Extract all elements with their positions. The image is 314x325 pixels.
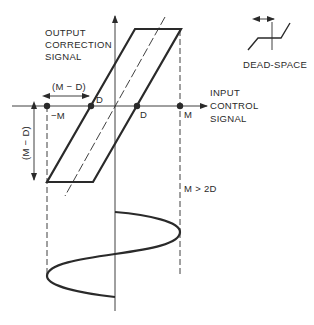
diagram-canvas: OUTPUT CORRECTION SIGNAL INPUT CONTROL S… <box>0 0 314 325</box>
x-axis-label-line-2: CONTROL <box>210 100 259 111</box>
dead-space-label: DEAD-SPACE <box>243 59 307 70</box>
point-d-right-label: D <box>140 109 147 120</box>
point-m <box>177 103 183 109</box>
condition-label: M > 2D <box>184 183 217 194</box>
x-axis-label-line-3: SIGNAL <box>210 113 247 124</box>
point-m-label: M <box>184 109 192 120</box>
x-axis-label-line-1: INPUT <box>210 87 240 98</box>
point-d-left <box>88 103 94 109</box>
point-d-left-label: D <box>96 94 103 105</box>
dead-space-icon <box>248 19 290 50</box>
horizontal-dimension-label: (M − D) <box>52 81 86 92</box>
point-neg-m-label: −M <box>51 110 65 121</box>
vertical-dimension-label: (M − D) <box>20 126 31 160</box>
y-axis-label-line-1: OUTPUT <box>45 27 86 38</box>
y-axis-label-line-3: SIGNAL <box>45 51 82 62</box>
sinusoidal-input-curve <box>47 212 180 297</box>
y-axis-label-line-2: CORRECTION <box>45 39 112 50</box>
point-neg-m <box>44 103 50 109</box>
